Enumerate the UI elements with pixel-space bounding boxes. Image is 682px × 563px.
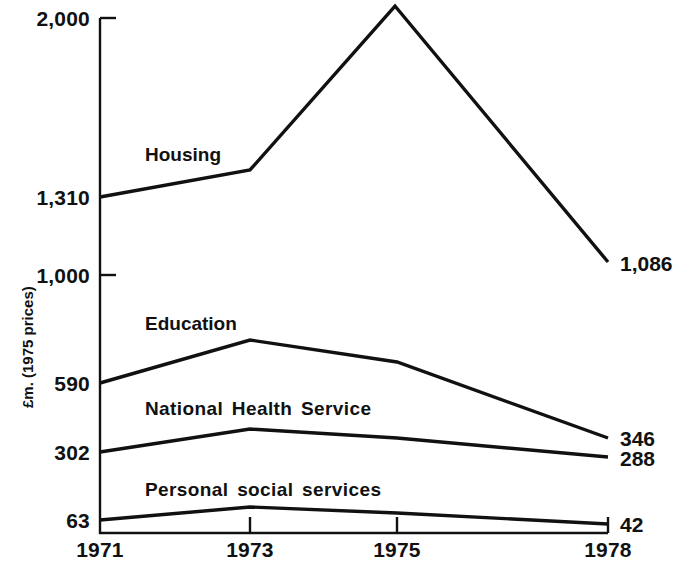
end-label-housing: 1,086 bbox=[620, 253, 673, 274]
y-tick-label-63: 63 bbox=[18, 510, 90, 531]
x-tick-label-1971: 1971 bbox=[68, 539, 132, 560]
end-label-pss: 42 bbox=[620, 514, 643, 535]
end-label-education: 346 bbox=[620, 428, 655, 449]
y-axis-ticks bbox=[100, 18, 116, 275]
series-line-housing bbox=[100, 6, 608, 262]
series-label-nhs: National Health Service bbox=[145, 399, 371, 418]
series-line-nhs bbox=[100, 429, 608, 457]
x-tick-label-1978: 1978 bbox=[576, 539, 640, 560]
y-tick-label-1000: 1,000 bbox=[18, 265, 90, 286]
y-tick-label-1310: 1,310 bbox=[18, 187, 90, 208]
chart-axes bbox=[100, 18, 608, 533]
series-label-housing: Housing bbox=[145, 145, 221, 164]
line-chart: £m. (1975 prices) 2,000 1,310 1,000 590 … bbox=[0, 0, 682, 563]
series-label-education: Education bbox=[145, 314, 237, 333]
x-tick-label-1975: 1975 bbox=[365, 539, 429, 560]
y-tick-label-590: 590 bbox=[18, 373, 90, 394]
end-label-nhs: 288 bbox=[620, 448, 655, 469]
x-axis-ticks bbox=[250, 517, 608, 533]
x-tick-label-1973: 1973 bbox=[218, 539, 282, 560]
series-line-pss bbox=[100, 507, 608, 524]
y-tick-label-2000: 2,000 bbox=[18, 8, 90, 29]
series-line-education bbox=[100, 340, 608, 438]
series-label-pss: Personal social services bbox=[145, 480, 381, 499]
y-tick-label-302: 302 bbox=[18, 442, 90, 463]
